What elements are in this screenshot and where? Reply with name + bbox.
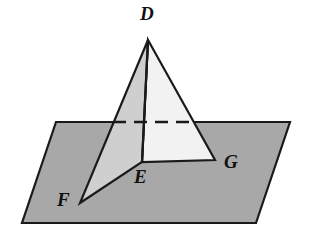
triangle-face-deg [142,40,215,162]
vertex-label-f: F [57,190,70,209]
geometry-diagram [0,0,312,245]
vertex-label-d: D [140,4,154,23]
vertex-label-e: E [134,167,147,186]
vertex-label-g: G [224,152,238,171]
geometry-figure: D E F G [0,0,312,245]
